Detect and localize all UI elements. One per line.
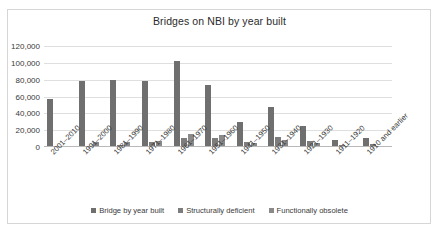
bars-layer — [44, 46, 392, 147]
bar[interactable] — [110, 80, 116, 147]
y-tick-label: 100,000 — [0, 58, 40, 67]
bar[interactable] — [205, 85, 211, 147]
legend-swatch-icon — [178, 208, 183, 213]
legend-label: Functionally obsolete — [277, 206, 348, 215]
legend-item[interactable]: Structurally deficient — [178, 206, 254, 215]
legend-item[interactable]: Functionally obsolete — [269, 206, 348, 215]
bar[interactable] — [79, 81, 85, 147]
y-tick-label: 0 — [0, 143, 40, 152]
bar[interactable] — [47, 99, 53, 147]
y-tick-label: 60,000 — [0, 92, 40, 101]
chart-container: Bridges on NBI by year built 020,00040,0… — [0, 0, 439, 235]
legend-swatch-icon — [269, 208, 274, 213]
chart-title: Bridges on NBI by year built — [0, 15, 439, 27]
legend-item[interactable]: Bridge by year built — [91, 206, 164, 215]
legend-label: Bridge by year built — [99, 206, 164, 215]
bar[interactable] — [237, 122, 243, 147]
y-tick-label: 20,000 — [0, 126, 40, 135]
legend-label: Structurally deficient — [186, 206, 254, 215]
x-axis: 2001–20101991–20001981–19901971–19801961… — [44, 148, 392, 200]
bar[interactable] — [142, 81, 148, 147]
legend-swatch-icon — [91, 208, 96, 213]
y-tick-label: 120,000 — [0, 42, 40, 51]
y-tick-label: 40,000 — [0, 109, 40, 118]
chart-legend: Bridge by year builtStructurally deficie… — [0, 206, 439, 215]
plot-area — [44, 46, 392, 147]
bar[interactable] — [174, 61, 180, 147]
y-tick-label: 80,000 — [0, 75, 40, 84]
y-axis: 020,00040,00060,00080,000100,000120,000 — [0, 46, 40, 147]
